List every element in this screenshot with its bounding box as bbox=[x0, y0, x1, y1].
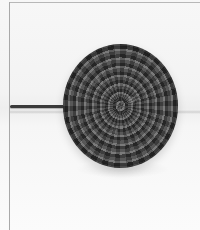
frame-top-border bbox=[9, 2, 200, 3]
pin bbox=[10, 105, 66, 108]
frame-left-border bbox=[9, 2, 10, 230]
crocheted-ball bbox=[63, 44, 178, 168]
photograph bbox=[0, 0, 200, 230]
